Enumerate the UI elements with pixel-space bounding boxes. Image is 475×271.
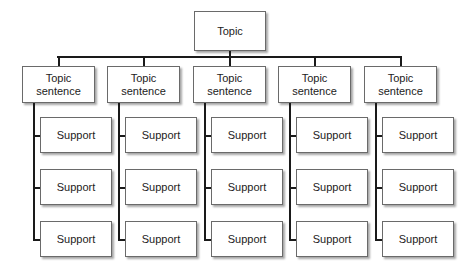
support-label: Support — [399, 233, 438, 246]
topic-sentence-label: Topic — [46, 72, 72, 85]
support-branch — [204, 239, 211, 241]
support-box: Support — [40, 221, 112, 257]
support-box: Support — [382, 221, 454, 257]
support-label: Support — [399, 129, 438, 142]
topic-sentence-label: Topic — [217, 72, 243, 85]
support-box: Support — [296, 221, 368, 257]
support-branch — [204, 135, 211, 137]
support-label: Support — [57, 181, 96, 194]
support-branch — [289, 187, 296, 189]
topic-sentence-label: Topic — [388, 72, 414, 85]
support-branch — [375, 239, 382, 241]
support-branch — [375, 187, 382, 189]
topic-sentence-label: sentence — [36, 85, 81, 98]
support-label: Support — [313, 233, 352, 246]
drop-connector — [229, 56, 231, 66]
support-box: Support — [211, 169, 283, 205]
topic-sentence-box: Topic sentence — [278, 66, 351, 103]
drop-connector — [143, 56, 145, 66]
support-box: Support — [211, 117, 283, 153]
support-box: Support — [296, 169, 368, 205]
support-branch — [118, 135, 125, 137]
support-label: Support — [57, 233, 96, 246]
support-branch — [289, 135, 296, 137]
support-label: Support — [57, 129, 96, 142]
drop-connector — [314, 56, 316, 66]
support-label: Support — [228, 129, 267, 142]
support-box: Support — [211, 221, 283, 257]
support-label: Support — [313, 129, 352, 142]
support-box: Support — [296, 117, 368, 153]
support-trunk — [289, 103, 291, 239]
support-branch — [289, 239, 296, 241]
support-box: Support — [40, 117, 112, 153]
topic-sentence-box: Topic sentence — [107, 66, 180, 103]
support-box: Support — [125, 169, 197, 205]
support-trunk — [33, 103, 35, 239]
support-box: Support — [382, 117, 454, 153]
support-label: Support — [313, 181, 352, 194]
topic-sentence-box: Topic sentence — [22, 66, 95, 103]
support-label: Support — [142, 181, 181, 194]
topic-sentence-label: sentence — [207, 85, 252, 98]
support-box: Support — [40, 169, 112, 205]
topic-sentence-box: Topic sentence — [364, 66, 437, 103]
support-branch — [204, 187, 211, 189]
support-trunk — [118, 103, 120, 239]
support-trunk — [204, 103, 206, 239]
support-label: Support — [228, 233, 267, 246]
support-branch — [33, 239, 40, 241]
support-label: Support — [142, 129, 181, 142]
support-branch — [33, 135, 40, 137]
support-trunk — [375, 103, 377, 239]
support-branch — [33, 187, 40, 189]
topic-sentence-label: sentence — [378, 85, 423, 98]
topic-box: Topic — [194, 11, 266, 51]
support-label: Support — [142, 233, 181, 246]
topic-label: Topic — [217, 25, 243, 38]
support-branch — [118, 187, 125, 189]
support-box: Support — [125, 221, 197, 257]
topic-sentence-label: Topic — [302, 72, 328, 85]
drop-connector — [400, 56, 402, 66]
drop-connector — [58, 56, 60, 66]
support-label: Support — [399, 181, 438, 194]
topic-sentence-box: Topic sentence — [193, 66, 266, 103]
support-label: Support — [228, 181, 267, 194]
topic-sentence-label: sentence — [292, 85, 337, 98]
topic-sentence-label: Topic — [131, 72, 157, 85]
support-branch — [375, 135, 382, 137]
support-box: Support — [125, 117, 197, 153]
topic-sentence-label: sentence — [121, 85, 166, 98]
support-box: Support — [382, 169, 454, 205]
support-branch — [118, 239, 125, 241]
